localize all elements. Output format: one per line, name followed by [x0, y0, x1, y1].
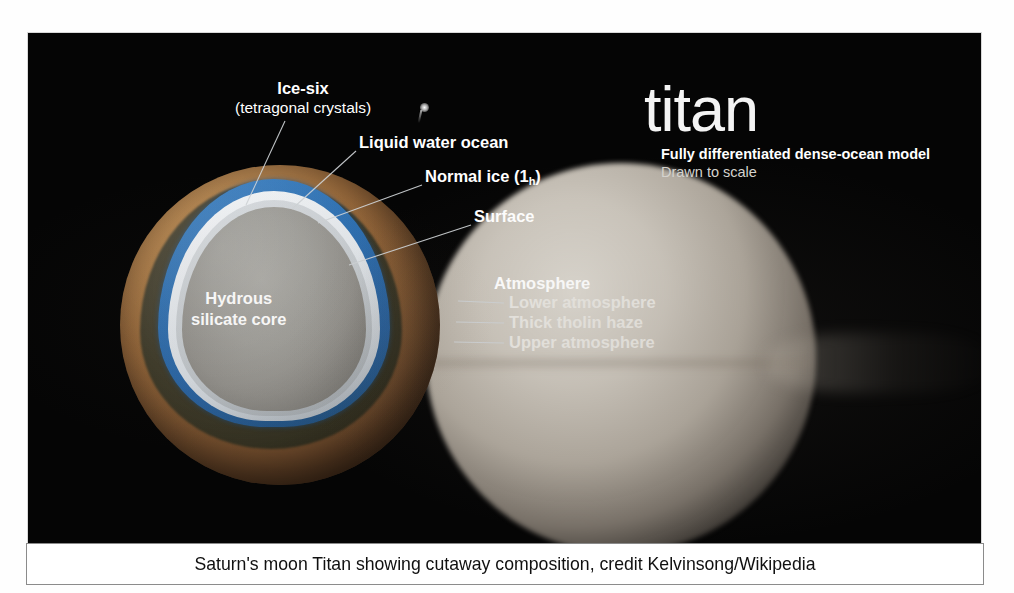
figure-subtitle-scale: Drawn to scale [661, 164, 757, 181]
speck-tail-icon [418, 110, 423, 123]
label-lower-atmosphere: Lower atmosphere [509, 293, 656, 312]
titan-haze-tail [768, 333, 981, 393]
page-background: Ice-six (tetragonal crystals) Liquid wat… [0, 0, 1014, 593]
label-core-line2: silicate core [191, 310, 286, 328]
label-ice-six: Ice-six (tetragonal crystals) [235, 79, 371, 116]
label-ice-six-line2: (tetragonal crystals) [235, 99, 371, 117]
label-liquid-water-ocean: Liquid water ocean [359, 133, 508, 152]
label-normal-ice-main: Normal ice (1 [425, 167, 529, 185]
label-thick-tholin-haze: Thick tholin haze [509, 313, 643, 332]
figure-title: titan [644, 78, 758, 141]
caption-box: Saturn's moon Titan showing cutaway comp… [26, 543, 984, 585]
figure-subtitle-model: Fully differentiated dense-ocean model [661, 146, 930, 163]
titan-equatorial-band [432, 355, 810, 371]
label-surface: Surface [474, 207, 535, 226]
label-upper-atmosphere: Upper atmosphere [509, 333, 655, 352]
label-ice-six-line1: Ice-six [277, 79, 328, 97]
label-normal-ice: Normal ice (1h) [425, 167, 541, 188]
titan-diagram-panel: Ice-six (tetragonal crystals) Liquid wat… [28, 33, 981, 543]
label-normal-ice-close: ) [535, 167, 541, 185]
label-hydrous-silicate-core: Hydrous silicate core [191, 288, 286, 329]
caption-text: Saturn's moon Titan showing cutaway comp… [194, 553, 815, 575]
label-core-line1: Hydrous [205, 289, 272, 307]
label-atmosphere: Atmosphere [494, 274, 590, 293]
